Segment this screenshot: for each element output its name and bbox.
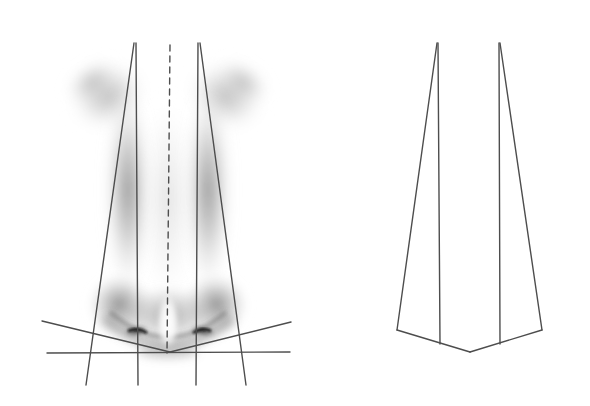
photo-panel-canvas (0, 0, 300, 406)
figure-root: Nasal base (basal view) analysis with ov… (0, 0, 590, 406)
schematic-panel-canvas (300, 0, 590, 406)
photo-panel (0, 0, 300, 406)
schematic-panel (300, 0, 590, 406)
